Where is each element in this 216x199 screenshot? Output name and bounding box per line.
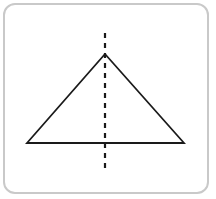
triangle-symmetry-figure: Isosceles triangle with vertical line of… xyxy=(0,0,216,199)
diagram-page: Isosceles triangle with vertical line of… xyxy=(0,0,216,199)
